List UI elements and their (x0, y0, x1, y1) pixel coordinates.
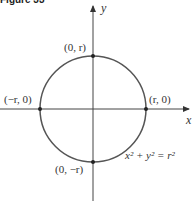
point-right-label: (r, 0) (149, 93, 171, 105)
y-axis-label: y (101, 1, 106, 16)
figure-label: Figure 33 (0, 0, 44, 5)
x-axis-label: x (186, 113, 191, 128)
equation-label: x² + y² = r² (125, 149, 175, 161)
point-top (91, 54, 95, 58)
point-top-label: (0, r) (64, 41, 86, 53)
point-right (144, 107, 148, 111)
point-left (38, 107, 42, 111)
point-bottom-label: (0, −r) (55, 163, 83, 175)
circle-figure: Figure 33 y x (0, r) (−r, 0) (r, 0) (0, … (0, 0, 196, 201)
point-bottom (91, 160, 95, 164)
point-left-label: (−r, 0) (4, 93, 32, 105)
